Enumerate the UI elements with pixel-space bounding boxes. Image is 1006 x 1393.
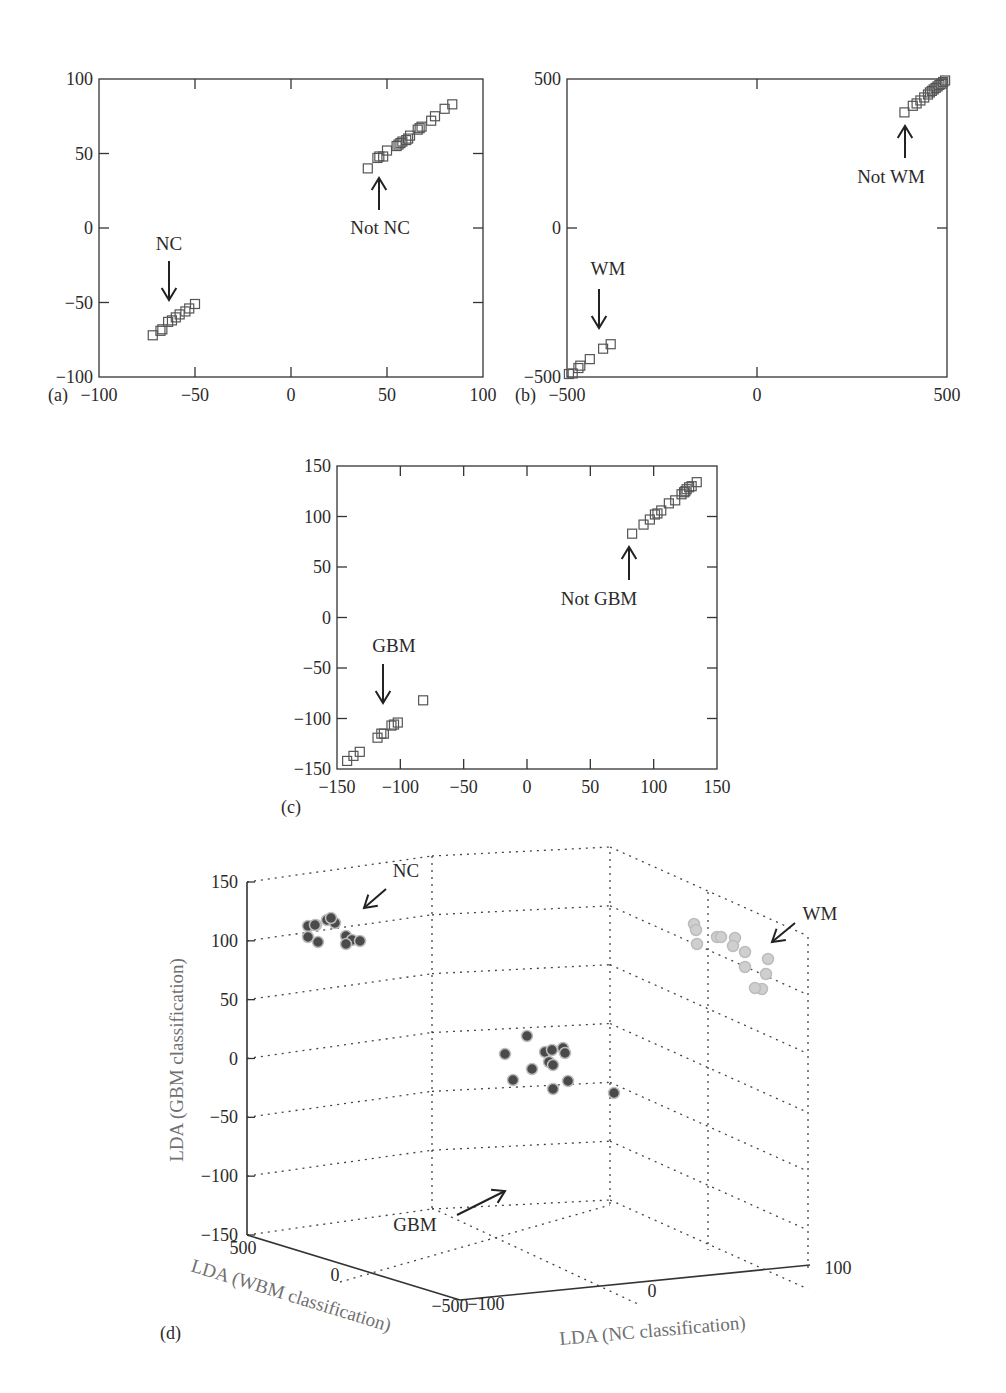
circle-marker	[563, 1076, 574, 1087]
x-tick-label: 500	[934, 385, 961, 405]
wbm-tick-label: 0	[331, 1265, 340, 1285]
annotation-label: WM	[591, 258, 626, 279]
y-tick-label: 100	[66, 69, 93, 89]
grid-line	[432, 965, 610, 974]
y-tick-label: −50	[303, 658, 331, 678]
z-tick-label: 100	[211, 931, 238, 951]
panel-label: (b)	[515, 385, 536, 406]
y-tick-label: −500	[524, 367, 561, 387]
square-marker	[419, 696, 428, 705]
nc-axis	[460, 1265, 810, 1300]
y-tick-label: 0	[552, 218, 561, 238]
circle-marker	[522, 1031, 533, 1042]
z-tick-label: −50	[210, 1107, 238, 1127]
wbm-tick-label: −500	[431, 1296, 468, 1316]
x-tick-label: 0	[523, 777, 532, 797]
nc-tick-label: 0	[648, 1281, 657, 1301]
circle-marker	[313, 937, 324, 948]
annotation-label: Not GBM	[561, 588, 638, 609]
circle-marker	[609, 1088, 620, 1099]
x-tick-label: −50	[181, 385, 209, 405]
y-tick-label: 50	[75, 144, 93, 164]
square-marker	[363, 164, 372, 173]
grid-line	[610, 1082, 808, 1171]
nc-tick-label: 100	[825, 1258, 852, 1278]
x-tick-label: 100	[640, 777, 667, 797]
panel-label: (c)	[281, 797, 301, 818]
circle-marker	[548, 1060, 559, 1071]
x-tick-label: −500	[548, 385, 585, 405]
series-gbm	[343, 696, 428, 766]
x-tick-label: −100	[80, 385, 117, 405]
grid-line	[247, 1033, 432, 1059]
plot-frame	[567, 79, 947, 377]
z-tick-label: 50	[220, 990, 238, 1010]
panel-b-scatter: −5000500−5000500WMNot WM(b)	[515, 69, 961, 406]
series-wm	[689, 919, 774, 995]
circle-marker	[716, 932, 727, 943]
series-not-nc	[363, 100, 456, 173]
circle-marker	[500, 1049, 511, 1060]
grid-line	[247, 1150, 432, 1176]
annotation-label: WM	[803, 903, 838, 924]
annotation-label: NC	[393, 860, 419, 881]
circle-marker	[326, 913, 337, 924]
plot-frame	[99, 79, 483, 377]
y-tick-label: 100	[304, 507, 331, 527]
nc-tick-label: −100	[467, 1294, 504, 1314]
series-not-wm	[900, 76, 950, 117]
grid-line	[247, 974, 432, 1000]
wbm-axis-title: LDA (WBM classification)	[189, 1255, 394, 1337]
circle-marker	[560, 1048, 571, 1059]
z-tick-label: −100	[201, 1166, 238, 1186]
square-marker	[585, 355, 594, 364]
circle-marker	[508, 1075, 519, 1086]
annotation-label: Not WM	[857, 166, 925, 187]
grid-line	[610, 1024, 808, 1113]
panel-c-scatter: −150−100−50050100150−150−100−50050100150…	[281, 456, 731, 818]
x-tick-label: 0	[753, 385, 762, 405]
panel-d-3d-scatter: −150−100−500501001505000−500−1000100LDA …	[160, 847, 852, 1350]
series-nc	[148, 299, 199, 339]
grid-line	[247, 1091, 432, 1117]
y-tick-label: 50	[313, 557, 331, 577]
x-tick-label: −50	[450, 777, 478, 797]
x-tick-label: 150	[704, 777, 731, 797]
circle-marker	[310, 920, 321, 931]
y-tick-label: 150	[304, 456, 331, 476]
x-tick-label: 0	[287, 385, 296, 405]
panel-label: (a)	[48, 385, 68, 406]
circle-marker	[740, 947, 751, 958]
grid-line	[610, 965, 808, 1054]
circle-marker	[355, 936, 366, 947]
circle-marker	[548, 1084, 559, 1095]
series-wm	[564, 340, 615, 379]
nc-axis-title: LDA (NC classification)	[559, 1312, 747, 1350]
square-marker	[181, 307, 190, 316]
circle-marker	[740, 962, 751, 973]
wbm-tick-label: 500	[230, 1238, 257, 1258]
square-marker	[671, 496, 680, 505]
circle-marker	[341, 939, 352, 950]
grid-line	[610, 906, 808, 995]
y-tick-label: −50	[65, 293, 93, 313]
annotation-label: GBM	[372, 635, 415, 656]
x-tick-label: 50	[378, 385, 396, 405]
y-tick-label: 500	[534, 69, 561, 89]
grid-line	[610, 847, 808, 936]
y-tick-label: 0	[322, 608, 331, 628]
panel-label: (d)	[160, 1323, 181, 1344]
annotation-label: Not NC	[350, 217, 410, 238]
x-tick-label: 50	[581, 777, 599, 797]
y-tick-label: −150	[294, 759, 331, 779]
circle-marker	[728, 941, 739, 952]
annotation-label: GBM	[393, 1214, 436, 1235]
y-tick-label: −100	[56, 367, 93, 387]
figure-canvas: −100−50050100−100−50050100NCNot NC(a) −5…	[0, 0, 1006, 1393]
circle-marker	[303, 932, 314, 943]
series-gbm	[500, 1031, 620, 1099]
x-tick-label: 100	[470, 385, 497, 405]
grid-line	[432, 1200, 610, 1209]
square-marker	[628, 529, 637, 538]
grid-line	[432, 847, 610, 856]
